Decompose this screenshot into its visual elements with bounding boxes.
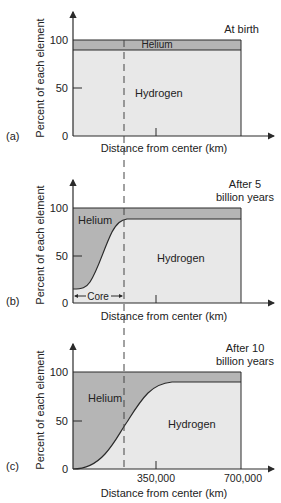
y-axis-label: Percent of each element <box>34 350 46 469</box>
hydrogen-label: Hydrogen <box>168 418 216 430</box>
ytick-50: 50 <box>56 82 68 94</box>
ytick-50: 50 <box>56 415 68 427</box>
hydrogen-label: Hydrogen <box>157 252 205 264</box>
ytick-0: 0 <box>62 463 68 475</box>
x-axis-label: Distance from center (km) <box>101 310 228 322</box>
x-axis-label: Distance from center (km) <box>101 487 228 499</box>
ytick-0: 0 <box>62 130 68 142</box>
panel-c: 100 50 0 350,000 700,000 (c) After 10 bi… <box>6 342 275 499</box>
panel-a: 100 50 0 (a) At birth Helium Hydrogen Di… <box>6 12 274 154</box>
panel-label: (c) <box>6 460 19 472</box>
y-axis-label: Percent of each element <box>34 18 46 137</box>
y-axis-label: Percent of each element <box>34 185 46 304</box>
panel-title-line2: billion years <box>216 355 275 367</box>
helium-label: Helium <box>141 39 172 50</box>
panel-label: (a) <box>6 130 19 142</box>
panel-label: (b) <box>6 295 19 307</box>
ytick-100: 100 <box>50 202 68 214</box>
hydrogen-label: Hydrogen <box>135 87 183 99</box>
ytick-100: 100 <box>50 366 68 378</box>
ytick-0: 0 <box>62 297 68 309</box>
xtick-700000: 700,000 <box>224 472 262 484</box>
helium-label: Helium <box>78 214 112 226</box>
ytick-100: 100 <box>50 34 68 46</box>
xtick-350000: 350,000 <box>137 472 175 484</box>
ytick-50: 50 <box>56 250 68 262</box>
panel-title-line2: billion years <box>216 191 275 203</box>
stellar-composition-figure: 100 50 0 (a) At birth Helium Hydrogen Di… <box>0 0 281 503</box>
core-label: Core <box>87 291 109 302</box>
x-axis-label: Distance from center (km) <box>101 142 228 154</box>
helium-label: Helium <box>88 392 122 404</box>
panel-title: At birth <box>224 23 259 35</box>
panel-title-line1: After 5 <box>229 178 261 190</box>
panel-b: Core 100 50 0 (b) After 5 billion years … <box>6 178 275 322</box>
panel-title-line1: After 10 <box>226 342 265 354</box>
